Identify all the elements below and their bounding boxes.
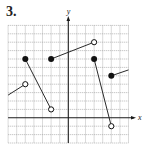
y-axis-label: y xyxy=(66,7,71,16)
function-segment xyxy=(51,42,94,59)
closed-endpoint-dot xyxy=(48,56,54,62)
x-axis-label: x xyxy=(137,113,142,122)
closed-endpoint-dot xyxy=(108,73,114,79)
y-axis-arrow-icon xyxy=(67,16,71,21)
axes xyxy=(8,16,136,143)
closed-endpoint-dot xyxy=(22,56,28,62)
closed-endpoint-dot xyxy=(91,56,97,62)
open-endpoint-circle xyxy=(92,40,97,45)
open-endpoint-circle xyxy=(49,107,54,112)
open-endpoint-circle xyxy=(23,82,28,87)
x-axis-arrow-icon xyxy=(131,116,136,120)
piecewise-graph: x y xyxy=(0,0,151,146)
open-endpoint-circle xyxy=(109,124,114,129)
